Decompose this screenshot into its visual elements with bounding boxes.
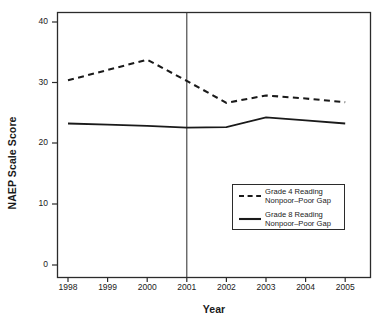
legend-label-grade-4-line1: Grade 4 Reading (265, 187, 331, 196)
legend-label-grade-4: Grade 4 Reading Nonpoor–Poor Gap (265, 187, 331, 206)
legend-entry-grade-4: Grade 4 Reading Nonpoor–Poor Gap (233, 185, 346, 208)
y-axis-title: NAEP Scale Score (0, 0, 24, 326)
y-axis-ticks (52, 22, 57, 265)
y-tick-label-40: 40 (26, 17, 48, 26)
y-tick-label-30: 30 (26, 78, 48, 87)
y-tick-label-0: 0 (26, 260, 48, 269)
plot-canvas (0, 0, 385, 326)
chart-figure: NAEP Scale Score (0, 0, 385, 326)
x-tick-label-2005: 2005 (325, 283, 365, 292)
legend-label-grade-4-line2: Nonpoor–Poor Gap (265, 196, 331, 205)
y-tick-label-10: 10 (26, 199, 48, 208)
x-tick-label-2001: 2001 (167, 283, 207, 292)
x-tick-label-2000: 2000 (127, 283, 167, 292)
chart-legend: Grade 4 Reading Nonpoor–Poor Gap Grade 8… (232, 184, 345, 230)
legend-label-grade-8-line1: Grade 8 Reading (265, 210, 331, 219)
x-tick-label-1998: 1998 (48, 283, 88, 292)
legend-key-dashed-line-icon (239, 192, 261, 200)
plot-frame (58, 13, 371, 278)
x-tick-label-2003: 2003 (246, 283, 286, 292)
legend-label-grade-8-line2: Nonpoor–Poor Gap (265, 219, 331, 228)
y-tick-label-20: 20 (26, 138, 48, 147)
x-tick-label-2004: 2004 (286, 283, 326, 292)
x-tick-label-2002: 2002 (206, 283, 246, 292)
x-axis-title: Year (57, 303, 371, 315)
legend-label-grade-8: Grade 8 Reading Nonpoor–Poor Gap (265, 210, 331, 229)
x-tick-label-1999: 1999 (88, 283, 128, 292)
legend-entry-grade-8: Grade 8 Reading Nonpoor–Poor Gap (233, 208, 346, 231)
legend-key-solid-line-icon (239, 215, 261, 223)
